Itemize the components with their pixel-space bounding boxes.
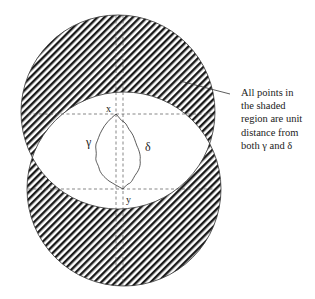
label-delta: δ — [145, 140, 151, 154]
label-gamma: γ — [85, 135, 92, 149]
label-point-x: x — [106, 103, 111, 114]
annotation-line: both γ and δ — [241, 139, 315, 152]
annotation-line: the shaded — [241, 99, 315, 112]
annotation-text: All points in the shaded region are unit… — [241, 86, 315, 152]
label-point-y: y — [126, 194, 131, 205]
annotation-line: All points in — [241, 86, 315, 99]
annotation-line: region are unit — [241, 112, 315, 125]
annotation-line: distance from — [241, 126, 315, 139]
